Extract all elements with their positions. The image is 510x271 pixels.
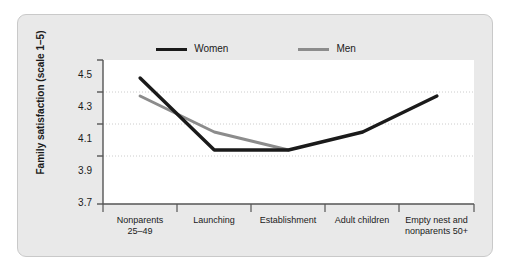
x-tick-label-empty-nest: Empty nest and nonparents 50+: [399, 215, 474, 236]
plot-background: [103, 60, 474, 204]
x-axis: [103, 204, 474, 212]
x-tick-line-2: 25–49: [103, 226, 177, 237]
x-tick-label-launching: Launching: [177, 215, 251, 226]
x-tick-line-1: Establishment: [251, 215, 325, 226]
x-tick-line-1: Nonparents: [103, 215, 177, 226]
x-tick-label-establishment: Establishment: [251, 215, 325, 226]
figure-panel: Women Men Family satisfaction (scale 1–5…: [17, 14, 493, 257]
y-axis: [97, 60, 103, 204]
x-tick-line-1: Adult children: [325, 215, 399, 226]
plot-area-wrapper: Family satisfaction (scale 1–5) 4.5 4.3 …: [18, 15, 494, 258]
x-tick-line-1: Empty nest and: [399, 215, 474, 226]
x-tick-line-2: nonparents 50+: [399, 226, 474, 237]
x-tick-label-adult-children: Adult children: [325, 215, 399, 226]
x-tick-label-nonparents-25-49: Nonparents 25–49: [103, 215, 177, 236]
x-tick-line-1: Launching: [177, 215, 251, 226]
